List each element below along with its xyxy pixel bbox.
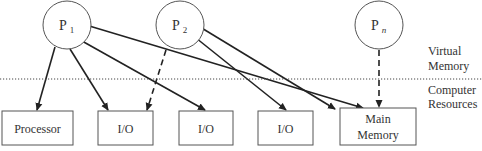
virtual-memory-label-line1: Virtual xyxy=(428,44,462,58)
edge-p1-io2 xyxy=(82,41,205,110)
virtual-memory-label-line2: Memory xyxy=(428,59,469,73)
edge-p2-io1 xyxy=(147,50,166,110)
edge-p2-io3 xyxy=(196,38,286,110)
virtualization-diagram: P 1 P 2 P n Virtual Memory Computer Reso… xyxy=(0,0,482,151)
resource-io-1: I/O xyxy=(98,111,153,145)
io-1-label: I/O xyxy=(118,122,134,136)
resource-io-2: I/O xyxy=(179,111,233,145)
process-p1: P 1 xyxy=(43,1,91,49)
resource-main-memory: Main Memory xyxy=(340,108,416,145)
process-pn-label: P xyxy=(371,18,379,33)
main-memory-label-line1: Main xyxy=(365,112,390,126)
process-p2-sub: 2 xyxy=(183,25,188,35)
io-2-label: I/O xyxy=(198,122,214,136)
process-pn: P n xyxy=(355,1,403,49)
edge-p2-main-memory xyxy=(200,27,335,109)
processor-label: Processor xyxy=(14,122,61,136)
computer-resources-label-line2: Resources xyxy=(428,97,478,111)
resource-io-3: I/O xyxy=(258,111,313,145)
process-p2: P 2 xyxy=(156,1,204,49)
resource-processor: Processor xyxy=(2,111,73,145)
process-p1-label: P xyxy=(59,18,67,33)
main-memory-label-line2: Memory xyxy=(357,128,398,142)
io-3-label: I/O xyxy=(278,122,294,136)
process-p2-label: P xyxy=(172,18,180,33)
svg-text:P: P xyxy=(59,18,67,33)
computer-resources-label-line1: Computer xyxy=(428,83,476,97)
process-p1-sub: 1 xyxy=(70,25,75,35)
process-pn-sub: n xyxy=(382,25,387,35)
